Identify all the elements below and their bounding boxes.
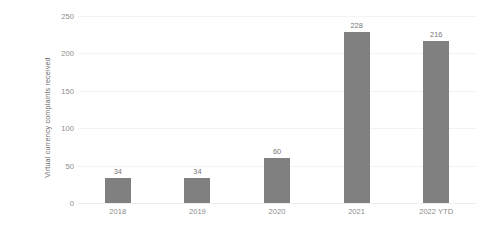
y-axis-tick-label: 250 (34, 12, 74, 21)
bar[interactable] (423, 41, 449, 203)
x-axis-tick-label: 2022 YTD (419, 207, 453, 216)
x-axis-tick-label: 2019 (189, 207, 206, 216)
bar-group[interactable]: 34 (184, 16, 210, 203)
bar[interactable] (105, 178, 131, 203)
x-axis-tick-labels: 20182019202020212022 YTD (78, 207, 476, 223)
bar-chart: Virtual currency complaints received 050… (0, 0, 491, 235)
bar-value-label: 216 (430, 30, 442, 39)
bar-group[interactable]: 216 (423, 16, 449, 203)
y-axis-tick-label: 150 (34, 86, 74, 95)
y-axis-tick-label: 100 (34, 124, 74, 133)
x-axis-tick-label: 2020 (269, 207, 286, 216)
bar-value-label: 60 (273, 147, 281, 156)
y-axis-tick-labels: 050100150200250 (30, 16, 74, 203)
y-axis-tick-label: 200 (34, 49, 74, 58)
bar-group[interactable]: 60 (264, 16, 290, 203)
y-axis-tick-label: 0 (34, 199, 74, 208)
y-axis-tick-label: 50 (34, 161, 74, 170)
bar-value-label: 34 (114, 167, 122, 176)
gridline (78, 203, 476, 204)
x-axis-tick-label: 2018 (109, 207, 126, 216)
bar[interactable] (264, 158, 290, 203)
bar-group[interactable]: 228 (344, 16, 370, 203)
bar-value-label: 34 (193, 167, 201, 176)
bar[interactable] (184, 178, 210, 203)
bar-group[interactable]: 34 (105, 16, 131, 203)
bar[interactable] (344, 32, 370, 203)
x-axis-tick-label: 2021 (348, 207, 365, 216)
bar-value-label: 228 (350, 21, 362, 30)
plot-area: 343460228216 (78, 16, 476, 203)
